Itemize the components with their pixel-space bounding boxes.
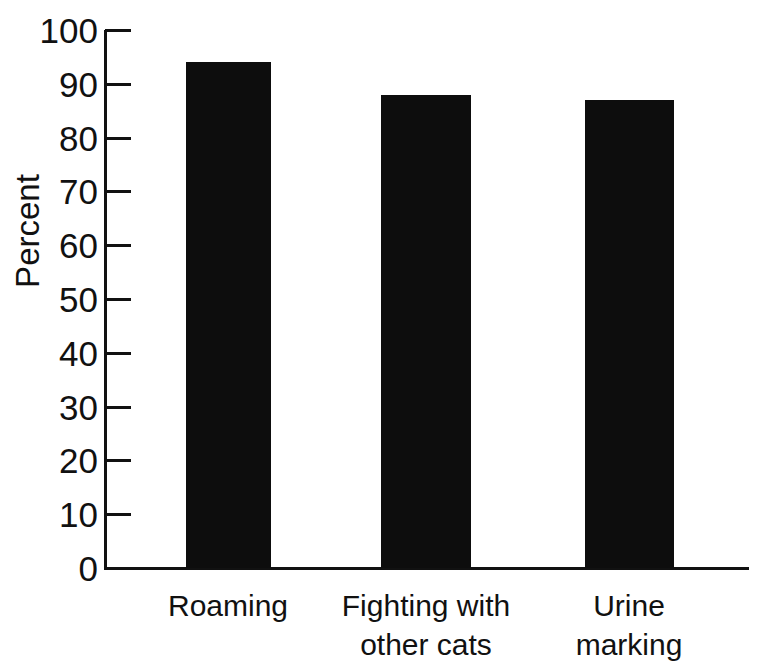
y-axis-tick-mark bbox=[105, 244, 131, 247]
x-axis-category-label-line: Urine bbox=[489, 586, 761, 625]
y-axis-tick-mark bbox=[105, 190, 131, 193]
y-axis-tick-label: 100 bbox=[0, 13, 98, 48]
y-axis-tick-mark bbox=[105, 29, 131, 32]
y-axis-tick-mark bbox=[105, 513, 131, 516]
y-axis-tick-label: 0 bbox=[0, 551, 98, 586]
y-axis-tick-label: 90 bbox=[0, 67, 98, 102]
y-axis-tick-mark bbox=[105, 352, 131, 355]
bar bbox=[186, 62, 271, 568]
y-axis-tick-labels: 1009080706050403020100 bbox=[0, 0, 98, 668]
y-axis-tick-label: 10 bbox=[0, 497, 98, 532]
y-axis-tick-mark bbox=[105, 137, 131, 140]
y-axis-tick-label: 70 bbox=[0, 174, 98, 209]
y-axis-tick-mark bbox=[105, 459, 131, 462]
bar bbox=[381, 95, 471, 568]
y-axis-tick-label: 60 bbox=[0, 228, 98, 263]
y-axis-tick-mark bbox=[105, 83, 131, 86]
y-axis-tick-label: 40 bbox=[0, 336, 98, 371]
x-axis-category-label: Urinemarking bbox=[489, 586, 761, 664]
bar-chart: Percent 1009080706050403020100 RoamingFi… bbox=[0, 0, 761, 668]
y-axis-tick-mark bbox=[105, 298, 131, 301]
y-axis-tick-mark bbox=[105, 406, 131, 409]
y-axis-tick-label: 20 bbox=[0, 443, 98, 478]
y-axis-tick-label: 50 bbox=[0, 282, 98, 317]
y-axis-tick-label: 30 bbox=[0, 390, 98, 425]
y-axis-tick-label: 80 bbox=[0, 121, 98, 156]
x-axis-category-label-line: marking bbox=[489, 625, 761, 664]
bar bbox=[585, 100, 674, 568]
